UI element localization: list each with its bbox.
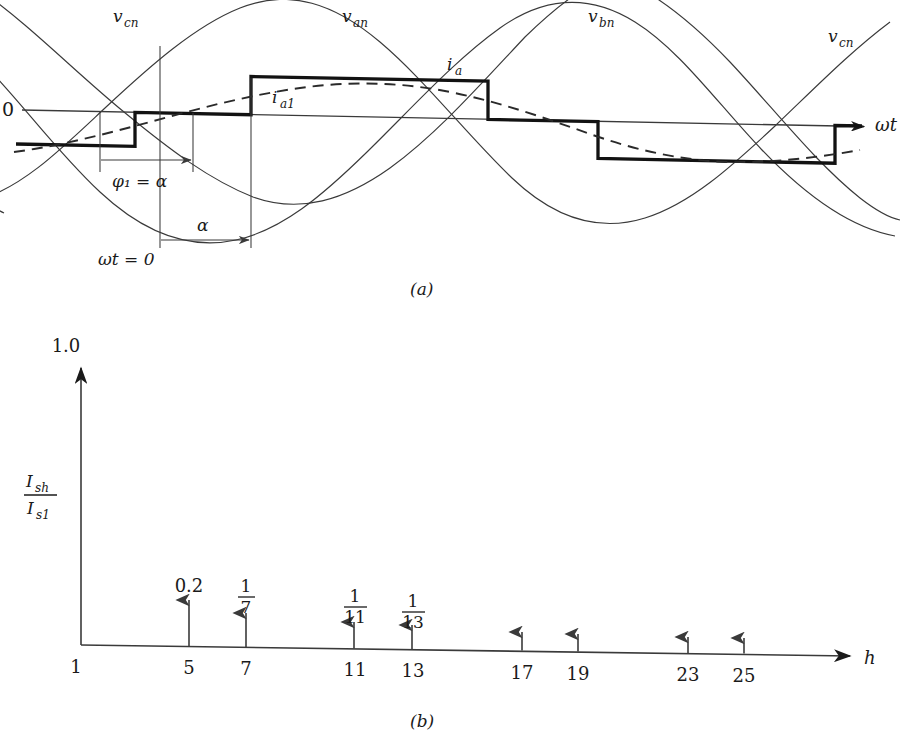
harmonic-value-label-7-den: 7: [241, 597, 252, 617]
panel-a-caption: (a): [410, 279, 433, 299]
y-axis-label-fraction: I sh I s1: [24, 471, 57, 522]
x-tick-label-1: 1: [70, 656, 81, 677]
wave-label-vbn-sub: bn: [599, 16, 614, 30]
figure-svg: 0 ωt v cn v an v bn v cn i a i a1: [0, 0, 909, 748]
wave-label-vcn-1-base: v: [113, 6, 123, 26]
axis-zero-label: 0: [2, 98, 14, 120]
wave-label-vcn-1: v cn: [113, 6, 138, 30]
harmonic-value-label-5: 0.2: [175, 575, 204, 596]
panel-b-caption: (b): [410, 711, 434, 731]
harmonic-value-label-11: 1 11: [344, 586, 367, 627]
y-axis-label-denominator-sub: s1: [36, 508, 50, 522]
label-ia-base: i: [447, 54, 452, 74]
axis-label-omega-t: ωt: [875, 114, 898, 135]
label-ia1-sub: a1: [280, 97, 295, 111]
wave-label-van-base: v: [342, 6, 352, 26]
axis-label-h: h: [864, 647, 876, 668]
harmonic-value-label-13-num: 1: [408, 591, 419, 611]
x-tick-label-19: 19: [567, 663, 590, 684]
dimension-label-alpha: α: [197, 215, 209, 235]
x-tick-label-17: 17: [511, 662, 534, 683]
wave-label-vcn-2: v cn: [828, 26, 853, 50]
x-tick-label-5: 5: [183, 657, 194, 678]
x-tick-label-11: 11: [344, 659, 367, 680]
harmonic-value-label-13-den: 13: [402, 612, 424, 632]
panel-a: 0 ωt v cn v an v bn v cn i a i a1: [0, 0, 900, 299]
harmonic-value-label-11-den: 11: [344, 607, 366, 627]
harmonic-value-label-7-num: 1: [241, 576, 252, 596]
y-axis-label-numerator-sub: sh: [35, 481, 49, 495]
harmonic-bars: [189, 600, 744, 654]
wave-label-van: v an: [342, 6, 368, 30]
x-tick-label-13: 13: [402, 660, 425, 681]
panel-b: 1.0 I sh I s1 0.2 1 7 1 11 1 13: [24, 335, 876, 731]
origin-marker-label: ωt = 0: [98, 249, 155, 269]
figure-container: 0 ωt v cn v an v bn v cn i a i a1: [0, 0, 909, 748]
y-axis-label-denominator: I: [26, 498, 34, 518]
wave-label-vcn-2-base: v: [828, 26, 838, 46]
label-ia-sub: a: [455, 64, 462, 78]
x-axis: [81, 645, 850, 656]
wave-label-vcn-1-sub: cn: [124, 16, 138, 30]
y-axis-top-label: 1.0: [52, 335, 81, 356]
y-axis-label-numerator: I: [25, 471, 33, 491]
x-tick-label-23: 23: [677, 664, 700, 685]
waveform-van-tail: [0, 200, 4, 213]
wave-label-vcn-2-sub: cn: [839, 36, 853, 50]
dimension-label-phi1: φ₁ = α: [112, 171, 168, 191]
fundamental-waveform-ia1: [14, 83, 860, 162]
wave-label-van-sub: an: [353, 16, 368, 30]
harmonic-value-label-11-num: 1: [350, 586, 361, 606]
label-ia: i a: [447, 54, 462, 78]
harmonic-value-label-13: 1 13: [402, 591, 425, 632]
waveform-vcn-1: [0, 0, 610, 204]
harmonic-value-label-7: 1 7: [238, 576, 255, 617]
x-tick-label-25: 25: [733, 665, 756, 686]
x-tick-label-7: 7: [240, 658, 251, 679]
wave-label-vbn-base: v: [588, 6, 598, 26]
waveform-vcn-2: [610, 0, 900, 220]
label-ia1-base: i: [272, 87, 277, 107]
